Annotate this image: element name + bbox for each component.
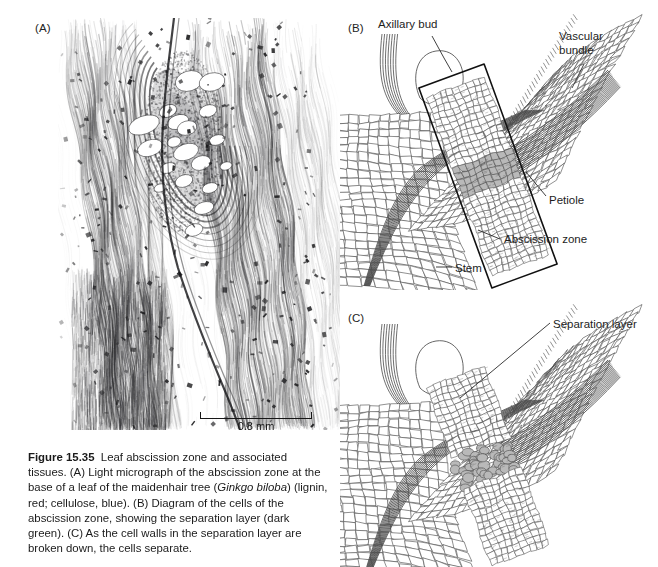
figure-caption: Figure 15.35 Leaf abscission zone and as… <box>28 450 328 556</box>
figure-number: Figure 15.35 <box>28 451 94 463</box>
panel-a: (A) 0.8 mm <box>0 0 340 440</box>
annotation-abscission-zone: Abscission zone <box>504 233 587 247</box>
scale-bar-line <box>200 412 312 419</box>
species-name: Ginkgo biloba <box>217 481 287 493</box>
panel-a-label: (A) <box>35 22 51 34</box>
panel-c: (C) Separation layer <box>340 290 658 567</box>
annotation-vascular-bundle: Vascular bundle <box>559 30 631 57</box>
scale-bar-label: 0.8 mm <box>200 420 312 432</box>
micrograph-canvas <box>58 18 340 430</box>
annotation-axillary-bud: Axillary bud <box>378 18 437 32</box>
annotation-petiole: Petiole <box>549 194 584 208</box>
scale-bar: 0.8 mm <box>200 412 312 432</box>
panel-c-diagram <box>340 290 658 567</box>
micrograph-image <box>58 18 340 430</box>
panel-b: (B) Axillary bud Vascular bundle Petiole… <box>340 0 658 290</box>
annotation-separation-layer: Separation layer <box>553 318 637 332</box>
annotation-stem: Stem <box>455 262 482 276</box>
